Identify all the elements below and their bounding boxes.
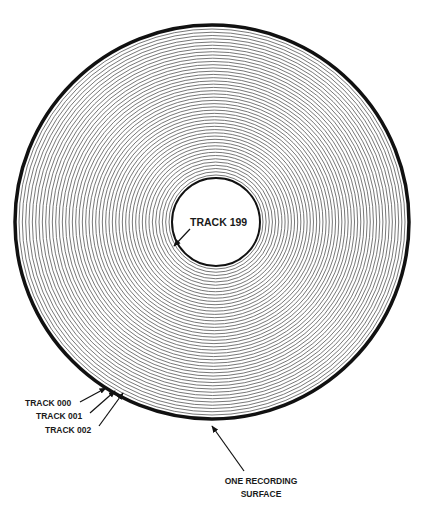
track-002-label: TRACK 002	[45, 425, 92, 435]
track-000-label: TRACK 000	[25, 398, 72, 408]
surface-label-line1: ONE RECORDING	[225, 476, 298, 486]
track-000-arrow	[80, 388, 106, 402]
disk-diagram: TRACK 199 TRACK 000 TRACK 001 TRACK 002 …	[0, 0, 425, 512]
track-002-arrow	[99, 393, 123, 426]
surface-arrow	[212, 426, 244, 471]
track-199-label: TRACK 199	[190, 216, 247, 228]
track-001-label: TRACK 001	[36, 411, 83, 421]
surface-label-line2: SURFACE	[241, 489, 282, 499]
